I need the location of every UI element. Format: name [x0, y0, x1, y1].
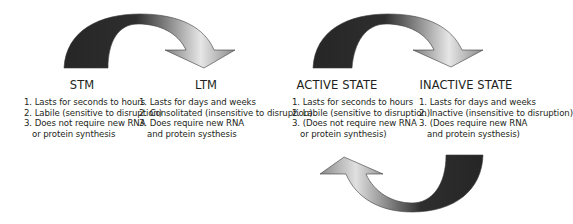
list-item: 1. Lasts for seconds to hours [292, 97, 430, 108]
list-item: 3. (Does not require new RNA [292, 118, 430, 129]
list-item: 3. Does require new RNA [139, 118, 312, 129]
inactive-state-properties-list: 1. Lasts for days and weeks 2. Inactive … [419, 97, 573, 139]
list-item: 1. Lasts for days and weeks [139, 97, 312, 108]
list-item: 3. (Does require new RNA [419, 118, 573, 129]
list-item: 1. Lasts for days and weeks [419, 97, 573, 108]
inactive-state-heading: INACTIVE STATE [420, 80, 513, 92]
stm-heading: STM [70, 80, 95, 92]
stm-to-ltm-arrow [64, 14, 235, 68]
active-to-inactive-arrow [313, 14, 483, 68]
inactive-to-active-arrow [320, 155, 483, 212]
list-item-continuation: and protein systhesis) [419, 129, 573, 140]
list-item: 2. Inactive (insensitive to disruption) [419, 108, 573, 119]
list-item: 2. Labile (sensitive to disruption) [292, 108, 430, 119]
active-state-properties-list: 1. Lasts for seconds to hours 2. Labile … [292, 97, 430, 139]
active-state-heading: ACTIVE STATE [297, 80, 378, 92]
ltm-properties-list: 1. Lasts for days and weeks 2. Consolita… [139, 97, 312, 139]
list-item-continuation: or protein synthesis) [292, 129, 430, 140]
list-item: 2. Consolitated (insensitive to disrupti… [139, 108, 312, 119]
ltm-heading: LTM [195, 80, 217, 92]
list-item-continuation: and protein systhesis [139, 129, 312, 140]
